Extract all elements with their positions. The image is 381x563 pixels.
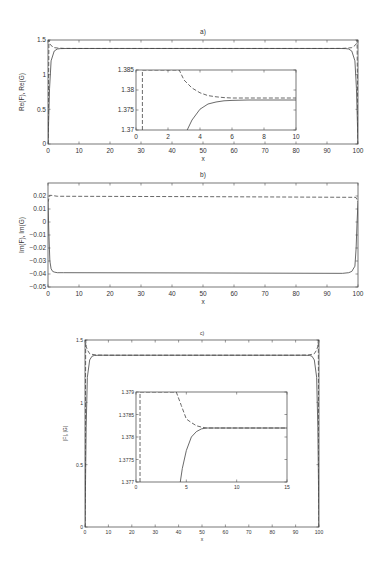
chart-title: c)	[200, 330, 205, 336]
chart-title: b)	[200, 171, 206, 179]
inset-a-xtick-label: 6	[230, 133, 234, 140]
plot-b-xtick-label: 40	[168, 290, 176, 297]
plot-b-xtick-label: 50	[199, 290, 207, 297]
plot-c-xtick-label: 70	[246, 529, 252, 535]
plot-a-xtick-label: 20	[106, 147, 114, 154]
plot-b-ytick-label: −0.04	[30, 270, 47, 277]
plot-a-xtick-label: 80	[292, 147, 300, 154]
plot-a-ytick-label: 1	[42, 71, 46, 78]
plot-c-xtick-label: 50	[199, 529, 205, 535]
plot-c-xtick-label: 80	[269, 529, 275, 535]
inset-c-xtick-label: 0	[135, 484, 138, 490]
inset-c-xtick-label: 15	[284, 484, 290, 490]
inset-a-ytick-label: 1.375	[118, 106, 135, 113]
x-axis-label: x	[201, 155, 205, 162]
plot-b-xtick-label: 10	[75, 290, 83, 297]
inset-a-ytick-label: 1.37	[121, 126, 134, 133]
inset-a-xtick-label: 2	[166, 133, 170, 140]
plot-c-xtick-label: 10	[106, 529, 112, 535]
plot-b-ytick-label: 0.01	[33, 205, 46, 212]
plot-b-xtick-label: 90	[323, 290, 331, 297]
plot-b-ytick-label: −0.01	[30, 231, 47, 238]
plot-b-series-imf-line	[48, 203, 358, 274]
plot-b-ytick-label: 0	[42, 218, 46, 225]
plot-c-ytick-label: 1	[80, 400, 83, 406]
inset-c-ytick-label: 1.3775	[119, 457, 135, 463]
inset-a-ytick-label: 1.38	[121, 86, 134, 93]
inset-a-xtick-label: 4	[198, 133, 202, 140]
plot-a-xtick-label: 30	[137, 147, 145, 154]
plot-b-ytick-label: −0.03	[30, 257, 47, 264]
plot-b-xtick-label: 20	[106, 290, 114, 297]
plot-a-ytick-label: 0	[42, 140, 46, 147]
plot-b-xtick-label: 80	[292, 290, 300, 297]
plot-b-ytick-label: −0.02	[30, 244, 47, 251]
chart-b: 0102030405060708090100−0.05−0.04−0.03−0.…	[18, 171, 364, 305]
plot-a-xtick-label: 70	[261, 147, 269, 154]
plot-a-ytick-label: 1.5	[37, 36, 46, 43]
inset-c-ytick-label: 1.3785	[119, 412, 135, 418]
plot-c-xtick-label: 60	[223, 529, 229, 535]
plot-a-xtick-label: 40	[168, 147, 176, 154]
plot-c-xtick-label: 40	[176, 529, 182, 535]
y-axis-label: Im(F), Im(G)	[18, 217, 26, 253]
plot-a-ytick-label: 0.5	[37, 106, 46, 113]
inset-c-background	[136, 392, 287, 482]
plot-a-xtick-label: 60	[230, 147, 238, 154]
inset-c-xtick-label: 10	[234, 484, 240, 490]
x-axis-label: x	[201, 536, 204, 542]
inset-a-xtick-label: 10	[292, 133, 300, 140]
plot-c-ytick-label: 0	[80, 524, 83, 530]
inset-c-ytick-label: 1.378	[121, 434, 134, 440]
plot-b-xtick-label: 100	[353, 290, 364, 297]
plot-c-xtick-label: 90	[293, 529, 299, 535]
x-axis-label: x	[201, 298, 205, 305]
plot-b-ytick-label: −0.05	[30, 283, 47, 290]
plot-b-series-img-line	[48, 195, 358, 202]
chart-title: a)	[200, 28, 206, 36]
plot-a-xtick-label: 10	[75, 147, 83, 154]
plot-b-xtick-label: 30	[137, 290, 145, 297]
plot-b-frame	[48, 183, 358, 287]
plot-b-xtick-label: 0	[46, 290, 50, 297]
plot-a-xtick-label: 0	[46, 147, 50, 154]
y-axis-label: |F|, |G|	[62, 426, 68, 441]
plot-c-ytick-label: 0.5	[76, 462, 83, 468]
plot-c-xtick-label: 0	[84, 529, 87, 535]
chart-a: 010203040506070809010000.511.5a)xRe(F), …	[18, 28, 364, 162]
chart-c: 010203040506070809010000.511.5c)x|F|, |G…	[62, 330, 323, 542]
inset-a-xtick-label: 0	[134, 133, 138, 140]
plot-a-xtick-label: 90	[323, 147, 331, 154]
inset-a: 02468101.371.3751.381.385	[118, 66, 300, 140]
plot-c-ytick-label: 1.5	[76, 337, 83, 343]
plot-b-xtick-label: 60	[230, 290, 238, 297]
plot-a-xtick-label: 100	[353, 147, 364, 154]
plot-b-xtick-label: 70	[261, 290, 269, 297]
inset-c: 0510151.3771.37751.3781.37851.379	[119, 389, 290, 490]
inset-c-xtick-label: 5	[185, 484, 188, 490]
plot-c-xtick-label: 20	[129, 529, 135, 535]
plot-c-xtick-label: 100	[315, 529, 324, 535]
inset-a-ytick-label: 1.385	[118, 66, 135, 73]
y-axis-label: Re(F), Re(G)	[18, 73, 26, 111]
plot-c-xtick-label: 30	[152, 529, 158, 535]
inset-c-ytick-label: 1.377	[121, 479, 134, 485]
figure: 010203040506070809010000.511.5a)xRe(F), …	[0, 0, 381, 563]
plot-a-xtick-label: 50	[199, 147, 207, 154]
plot-b-ytick-label: 0.02	[33, 192, 46, 199]
inset-c-ytick-label: 1.379	[121, 389, 134, 395]
inset-a-xtick-label: 8	[262, 133, 266, 140]
